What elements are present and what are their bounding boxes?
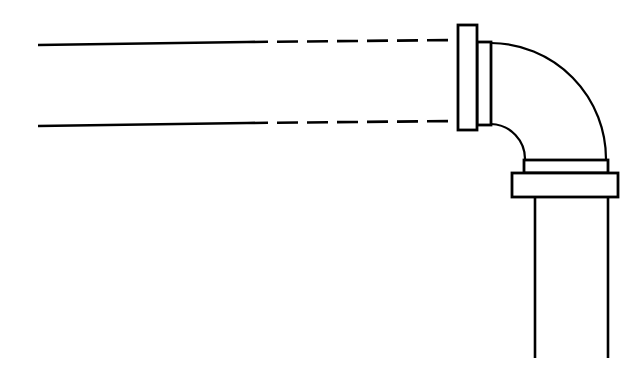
ninety-degree-elbow [491,43,606,160]
horizontal-pipe-bottom-wall-dashed [247,121,458,123]
horizontal-pipe-run [38,40,458,126]
bottom-flange-ring [512,173,618,197]
vertical-mating-flange [458,25,491,130]
vertical-flange-face-plate [458,25,477,130]
technical-drawing-canvas [0,0,641,380]
bottom-bolted-flange [512,160,618,197]
elbow-inner-arc [491,124,525,160]
horizontal-pipe-top-wall-dashed [247,40,458,42]
horizontal-pipe-top-wall-solid [38,42,247,45]
elbow-outer-arc [491,43,606,160]
bottom-flange-raised-face [524,160,608,173]
vertical-flange-hub-collar [477,42,491,125]
vertical-downcomer-pipe [535,197,608,358]
horizontal-pipe-bottom-wall-solid [38,123,247,126]
piping-elbow-diagram [0,0,641,380]
